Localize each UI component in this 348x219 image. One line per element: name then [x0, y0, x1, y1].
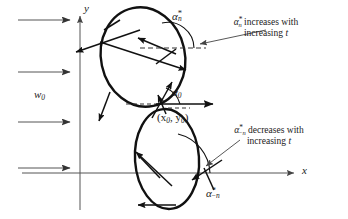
alpha-star-n-arc — [162, 22, 194, 48]
lower-annotation-phrase: decreases with — [246, 125, 304, 135]
alpha-star-n-label: α*n — [172, 8, 182, 24]
alpha-star-n-subscript: n — [178, 14, 182, 23]
lower-annotation-line-2: increasing t — [196, 136, 342, 147]
velocity-vector-upper-down — [99, 92, 110, 121]
velocity-vector-upper-crossline — [156, 49, 176, 64]
velocity-vector-lower-diag — [136, 152, 172, 186]
alpha-zero-label: α0 — [172, 86, 182, 100]
physics-trajectory-diagram: y x w0 α*n α0 (x0, y0) α*−n α*n increase… — [0, 0, 348, 219]
velocity-vector-outgoing-left — [76, 30, 140, 52]
upper-outgoing-vector-group — [76, 30, 140, 52]
upper-annotation-line-1: α*n increases with — [194, 16, 338, 28]
lower-annotation-time-symbol: t — [288, 136, 291, 146]
velocity-vector-lower-tail — [140, 157, 160, 178]
initial-point-label: (x0, y0) — [157, 111, 188, 125]
y-axis-label: y — [84, 2, 89, 15]
upper-annotation-time-symbol: t — [285, 28, 288, 38]
lower-annotation-text: α*−n decreases with increasing t — [196, 124, 342, 148]
initial-point-mid: , y — [170, 111, 181, 123]
alpha-zero-subscript: 0 — [178, 91, 182, 100]
x-axis-label: x — [302, 164, 307, 177]
initial-point-close: ) — [185, 111, 189, 123]
alpha-star-minus-n-label: α*−n — [206, 185, 220, 201]
lower-annotation-line-1: α*−n decreases with — [196, 124, 342, 136]
upper-annotation-text: α*n increases with increasing t — [194, 16, 338, 40]
initial-point-open: (x — [157, 111, 166, 123]
alpha-star-minus-n-subscript: −n — [211, 191, 220, 200]
freestream-velocity-subscript: 0 — [41, 93, 45, 102]
lower-annotation-phrase-2: increasing — [247, 136, 288, 146]
lower-annotation-subscript: −n — [238, 129, 246, 136]
upper-annotation-line-2: increasing t — [194, 28, 338, 39]
upper-annotation-phrase-2: increasing — [244, 28, 285, 38]
velocity-vector-upper-left — [138, 38, 176, 54]
freestream-velocity-label: w0 — [34, 88, 45, 102]
upper-annotation-phrase: increases with — [242, 17, 298, 27]
upper-angle-arc — [162, 22, 194, 48]
velocity-vector-upper-tangent — [100, 42, 186, 70]
velocity-vector-lower-right — [192, 160, 222, 180]
